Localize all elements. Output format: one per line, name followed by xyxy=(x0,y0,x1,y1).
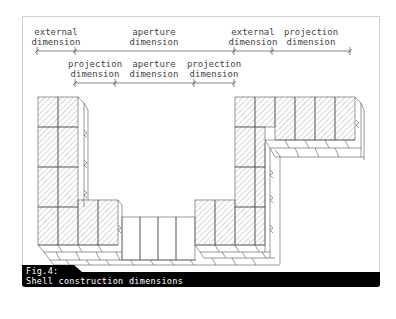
left-projection xyxy=(78,200,122,260)
dim-label-line: dimension xyxy=(187,69,241,79)
dim-label-projection-left: projection dimension xyxy=(68,59,122,79)
dim-label-aperture-inner: aperture dimension xyxy=(130,59,179,79)
dim-label-line: dimension xyxy=(32,37,81,47)
right-top-return xyxy=(265,97,364,160)
left-base-courses xyxy=(38,245,196,265)
figure-caption: Shell construction dimensions xyxy=(26,276,183,286)
dim-label-external-right: external dimension xyxy=(229,27,278,47)
right-base-courses xyxy=(195,245,280,265)
dim-label-line: dimension xyxy=(284,37,338,47)
dim-label-external-left: external dimension xyxy=(32,27,81,47)
dim-label-line: external xyxy=(32,27,81,37)
dim-label-line: dimension xyxy=(68,69,122,79)
figure-number: Fig.4: xyxy=(26,266,59,276)
dim-label-aperture-top: aperture dimension xyxy=(130,27,179,47)
dimension-line-row2 xyxy=(73,79,236,87)
dim-label-line: projection xyxy=(187,59,241,69)
dim-label-line: projection xyxy=(68,59,122,69)
dimension-line-row1 xyxy=(35,47,352,55)
right-wall-column xyxy=(235,97,280,264)
aperture-bricks xyxy=(122,217,196,265)
dim-label-projection-top: projection dimension xyxy=(284,27,338,47)
dim-label-line: projection xyxy=(284,27,338,37)
right-projection xyxy=(195,200,235,245)
dim-label-line: dimension xyxy=(229,37,278,47)
dim-label-line: aperture xyxy=(130,27,179,37)
figure-caption-bar: Fig.4: Shell construction dimensions xyxy=(22,265,380,287)
dim-label-line: dimension xyxy=(130,37,179,47)
dim-label-projection-right: projection dimension xyxy=(187,59,241,79)
dim-label-line: external xyxy=(229,27,278,37)
dim-label-line: dimension xyxy=(130,69,179,79)
dim-label-line: aperture xyxy=(130,59,179,69)
